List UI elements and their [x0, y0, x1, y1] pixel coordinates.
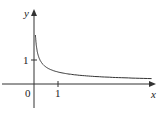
- y-axis-arrow-icon: [31, 9, 37, 16]
- function-curve: [35, 35, 151, 79]
- y-axis-label: y: [23, 7, 29, 19]
- y-tick-label-1: 1: [23, 54, 29, 66]
- x-tick-label-1: 1: [55, 87, 61, 99]
- x-axis-arrow-icon: [149, 81, 156, 87]
- origin-label: 0: [25, 87, 31, 99]
- x-axis-label: x: [150, 88, 156, 100]
- graph: y x 0 1 1: [0, 0, 165, 120]
